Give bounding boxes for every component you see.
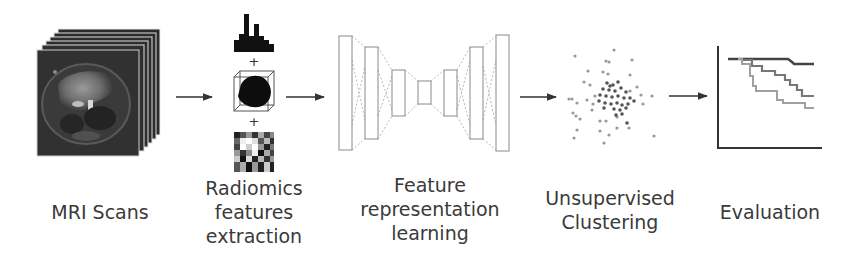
radiomics-features-icon: + + xyxy=(234,14,274,172)
label-line: Feature xyxy=(350,173,510,197)
label-line: representation xyxy=(350,197,510,221)
step-label-radiomics: Radiomics features extraction xyxy=(194,176,314,248)
step-label-representation: Feature representation learning xyxy=(350,173,510,245)
svg-text:+: + xyxy=(249,54,260,69)
label-line: learning xyxy=(350,221,510,245)
step-label-evaluation: Evaluation xyxy=(710,200,830,224)
histogram-icon xyxy=(234,14,274,52)
texture-matrix-icon xyxy=(234,132,274,172)
step-label-mri: MRI Scans xyxy=(40,200,160,224)
step-label-clustering: Unsupervised Clustering xyxy=(540,186,680,234)
label-line: Clustering xyxy=(540,210,680,234)
label-line: Radiomics xyxy=(194,176,314,200)
label-line: Unsupervised xyxy=(540,186,680,210)
label-line: extraction xyxy=(194,224,314,248)
pipeline-diagram: + + xyxy=(0,0,860,263)
mri-slice-stack-icon xyxy=(37,29,160,156)
3d-shape-cube-icon xyxy=(234,71,274,111)
label-line: MRI Scans xyxy=(40,200,160,224)
label-line: features xyxy=(194,200,314,224)
scatter-cluster-icon xyxy=(567,48,655,144)
curve-low xyxy=(738,59,814,108)
survival-curve-icon xyxy=(718,46,822,148)
autoencoder-network-icon xyxy=(339,35,509,151)
label-line: Evaluation xyxy=(710,200,830,224)
svg-text:+: + xyxy=(249,114,260,129)
